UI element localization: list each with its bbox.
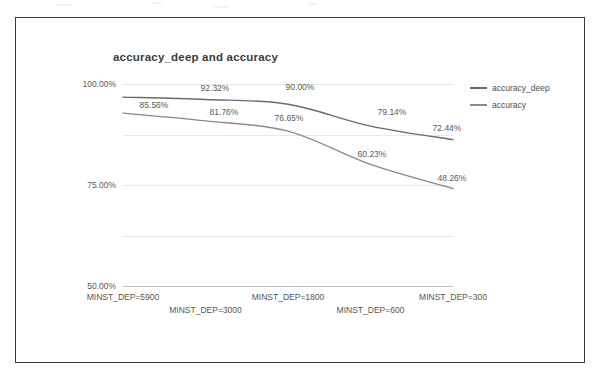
data-point-label: 92.32% — [201, 83, 230, 93]
scan-noise — [0, 0, 599, 14]
y-axis-tick-label: 50.00% — [87, 281, 116, 291]
data-point-label: 81.76% — [210, 107, 239, 117]
legend-label-accuracy-deep: accuracy_deep — [492, 83, 550, 93]
gridline: 0.00% — [123, 286, 453, 287]
legend: accuracy_deep accuracy — [470, 81, 575, 115]
data-point-label: 76.65% — [275, 113, 304, 123]
x-axis-label: MINST_DEP=300 — [419, 292, 487, 302]
legend-item-accuracy-deep[interactable]: accuracy_deep — [470, 81, 575, 95]
legend-swatch-accuracy-deep — [470, 87, 487, 89]
legend-item-accuracy[interactable]: accuracy — [470, 98, 575, 112]
x-axis-label: MINST_DEP=3000 — [169, 305, 242, 315]
data-point-label: 90.00% — [286, 82, 315, 92]
data-point-label: 48.26% — [438, 173, 467, 183]
data-point-label: 79.14% — [378, 107, 407, 117]
series-line-accuracy — [123, 113, 453, 188]
x-axis-label: MINST_DEP=600 — [337, 305, 405, 315]
legend-label-accuracy: accuracy — [492, 100, 526, 110]
data-point-label: 72.44% — [433, 123, 462, 133]
x-axis-label: MINST_DEP=5900 — [87, 292, 160, 302]
legend-swatch-accuracy — [470, 104, 487, 106]
y-axis-tick-label: 100.00% — [82, 79, 116, 89]
data-point-label: 85.56% — [140, 100, 169, 110]
x-axis-label: MINST_DEP=1800 — [252, 292, 325, 302]
chart-title: accuracy_deep and accuracy — [113, 51, 278, 63]
y-axis-tick-label: 75.00% — [87, 180, 116, 190]
data-point-label: 60.23% — [358, 149, 387, 159]
